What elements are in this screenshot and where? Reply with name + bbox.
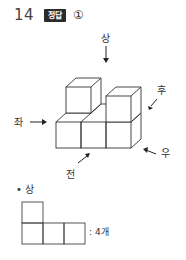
- label-top: 상: [101, 33, 110, 44]
- upper-cube-front-face: [106, 96, 131, 122]
- label-back: 후: [157, 85, 166, 96]
- top-view-grid: [22, 202, 85, 244]
- cube-front-face: [106, 122, 131, 148]
- cube-diagram: 상 후 좌 우 전: [0, 0, 186, 260]
- top-view-heading: • 상: [16, 181, 34, 196]
- label-right: 우: [161, 148, 170, 159]
- label-front: 전: [66, 169, 75, 180]
- top-view-count: : 4개: [89, 225, 109, 238]
- label-left: 좌: [14, 117, 23, 128]
- cube-front-face: [56, 122, 81, 148]
- cube-front-face: [81, 122, 106, 148]
- upper-cube-front-face: [66, 87, 91, 113]
